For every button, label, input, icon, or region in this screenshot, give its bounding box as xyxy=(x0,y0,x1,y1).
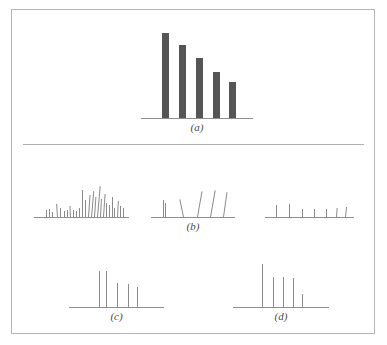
figure-root: (a)(b)(c)(d) xyxy=(0,0,387,345)
panel-caption-d: (d) xyxy=(261,310,301,322)
spectrum-line xyxy=(262,264,263,307)
spectrum-line xyxy=(293,278,294,307)
panel-d: (d) xyxy=(12,10,374,333)
spectrum-line xyxy=(273,277,274,307)
figure-frame: (a)(b)(c)(d) xyxy=(11,9,375,334)
spectrum-line xyxy=(302,294,303,307)
spectrum-line xyxy=(283,277,284,307)
axis-baseline-d xyxy=(233,307,329,308)
